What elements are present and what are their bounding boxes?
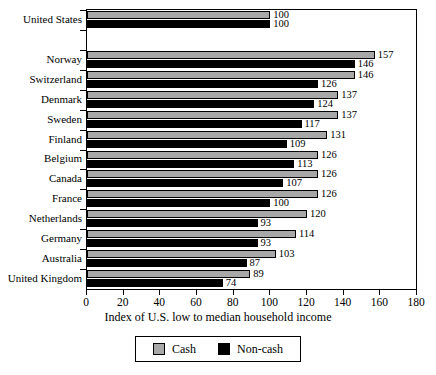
bar-value-cash: 126 [321, 150, 337, 159]
bar-group-france: 126100 [87, 190, 417, 210]
y-tick-mark [80, 110, 86, 111]
x-tick-label: 0 [83, 296, 89, 308]
legend-entry-noncash: Non-cash [218, 343, 283, 355]
x-tick-label: 100 [261, 296, 278, 308]
bar-group-empty [87, 31, 417, 51]
bar-group-denmark: 137124 [87, 91, 417, 111]
category-label-france: France [0, 193, 82, 204]
bar-group-united-states: 100100 [87, 11, 417, 31]
bar-value-cash: 89 [253, 269, 264, 278]
bar-cash [87, 111, 338, 119]
bar-value-noncash: 109 [290, 139, 306, 148]
bar-value-cash: 114 [299, 229, 314, 238]
bar-noncash [87, 100, 314, 108]
x-axis-title: Index of U.S. low to median household in… [0, 310, 436, 324]
category-label-sweden: Sweden [0, 114, 82, 125]
y-tick-mark [80, 150, 86, 151]
bar-value-noncash: 93 [261, 238, 272, 247]
x-tick-mark [196, 290, 197, 295]
legend-swatch-cash-icon [153, 343, 165, 355]
bar-value-noncash: 126 [321, 79, 337, 88]
bar-noncash [87, 140, 287, 148]
category-label-norway: Norway [0, 54, 82, 65]
bar-group-netherlands: 12093 [87, 210, 417, 230]
bar-group-canada: 126107 [87, 170, 417, 190]
x-tick-mark [416, 290, 417, 295]
x-tick-mark [86, 290, 87, 295]
y-tick-mark [80, 50, 86, 51]
bar-value-cash: 137 [341, 110, 357, 119]
legend-label-noncash: Non-cash [237, 343, 283, 355]
y-tick-mark [80, 90, 86, 91]
bar-value-cash: 146 [358, 70, 374, 79]
bar-value-noncash: 113 [297, 159, 312, 168]
bar-cash [87, 151, 318, 159]
category-label-netherlands: Netherlands [0, 213, 82, 224]
bar-value-cash: 137 [341, 90, 357, 99]
bar-cash [87, 170, 318, 178]
x-tick-mark [269, 290, 270, 295]
bar-noncash [87, 160, 294, 168]
y-tick-mark [80, 10, 86, 11]
y-tick-mark [80, 209, 86, 210]
bar-noncash [87, 20, 270, 28]
bar-noncash [87, 179, 283, 187]
x-tick-label: 60 [190, 296, 202, 308]
bar-value-cash: 120 [310, 209, 326, 218]
bar-group-germany: 11493 [87, 230, 417, 250]
x-tick-label: 20 [117, 296, 129, 308]
bar-group-norway: 157146 [87, 51, 417, 71]
bar-value-noncash: 74 [226, 278, 237, 287]
bar-value-noncash: 124 [317, 99, 333, 108]
x-tick-label: 160 [371, 296, 388, 308]
y-tick-mark [80, 269, 86, 270]
category-label-finland: Finland [0, 134, 82, 145]
bar-group-sweden: 137117 [87, 111, 417, 131]
legend-label-cash: Cash [172, 343, 196, 355]
bars-layer: 1001001571461461261371241371171311091261… [87, 10, 417, 289]
category-label-germany: Germany [0, 233, 82, 244]
bar-group-australia: 10387 [87, 250, 417, 270]
bar-value-cash: 157 [378, 50, 394, 59]
x-tick-label: 120 [297, 296, 314, 308]
legend-entry-cash: Cash [153, 343, 196, 355]
category-label-united-kingdom: United Kingdom [0, 273, 82, 284]
x-tick-mark [233, 290, 234, 295]
bar-noncash [87, 239, 258, 247]
y-axis-category-labels: United StatesNorwaySwitzerlandDenmarkSwe… [0, 10, 82, 289]
y-tick-mark [80, 229, 86, 230]
bar-noncash [87, 60, 355, 68]
y-tick-mark [80, 169, 86, 170]
x-tick-mark [343, 290, 344, 295]
chart-legend: Cash Non-cash [135, 336, 301, 362]
y-tick-mark [80, 30, 86, 31]
bar-value-noncash: 117 [305, 119, 320, 128]
y-tick-mark [80, 70, 86, 71]
bar-noncash [87, 259, 247, 267]
bar-noncash [87, 199, 270, 207]
bar-group-united-kingdom: 8974 [87, 270, 417, 290]
bar-value-noncash: 146 [358, 59, 374, 68]
bar-value-noncash: 100 [273, 19, 289, 28]
bar-value-noncash: 93 [261, 218, 272, 227]
category-label-belgium: Belgium [0, 153, 82, 164]
bar-value-cash: 126 [321, 189, 337, 198]
bar-group-finland: 131109 [87, 131, 417, 151]
y-tick-mark [80, 249, 86, 250]
y-tick-mark [80, 189, 86, 190]
category-label-canada: Canada [0, 173, 82, 184]
category-label-australia: Australia [0, 253, 82, 264]
x-tick-label: 40 [154, 296, 166, 308]
category-label-switzerland: Switzerland [0, 74, 82, 85]
x-tick-label: 180 [407, 296, 424, 308]
x-tick-label: 140 [334, 296, 351, 308]
bar-value-noncash: 107 [286, 178, 302, 187]
bar-value-cash: 131 [330, 130, 346, 139]
bar-value-noncash: 87 [250, 258, 261, 267]
bar-cash [87, 71, 355, 79]
bar-cash [87, 51, 375, 59]
bar-value-cash: 103 [279, 249, 295, 258]
x-tick-mark [379, 290, 380, 295]
bar-value-cash: 126 [321, 169, 337, 178]
x-tick-mark [306, 290, 307, 295]
